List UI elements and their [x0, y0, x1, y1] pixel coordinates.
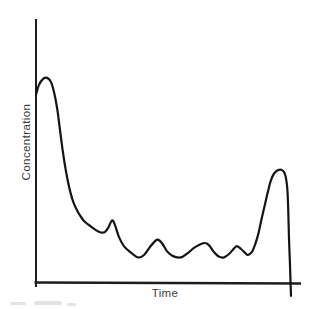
x-axis-label: Time	[152, 287, 179, 299]
cutoff-caption-fragment	[67, 303, 76, 306]
x-axis-line	[35, 283, 302, 284]
cutoff-caption-fragment	[10, 302, 26, 305]
figure-canvas: Concentration Time	[0, 0, 315, 309]
concentration-curve	[36, 78, 291, 296]
cutoff-caption-fragment	[34, 301, 62, 305]
chart-svg	[0, 0, 315, 309]
y-axis-label: Concentration	[20, 104, 32, 181]
